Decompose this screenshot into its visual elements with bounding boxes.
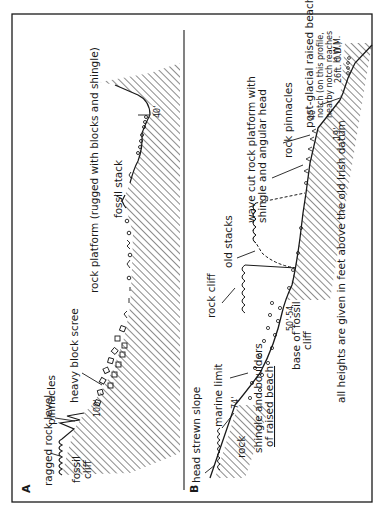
label-pinnacles: pinnacles — [45, 375, 57, 425]
label-post-glacial-1: post-glacial raised beach — [303, 0, 315, 128]
coastal-profile-figure: A — [0, 0, 380, 513]
panel-a: A — [20, 47, 180, 493]
label-height-40-a: 40' — [153, 106, 162, 118]
panel-b: B — [188, 0, 372, 493]
label-base-of-fossil-cliff-2: cliff — [301, 330, 313, 350]
label-rock-platform: rock platform (rugged with blocks and sh… — [88, 47, 100, 293]
label-marine-limit: marine limit — [212, 364, 224, 427]
label-fossil-stack: fossil stack — [112, 159, 124, 218]
label-raised-beach: of raised beach — [263, 366, 275, 447]
label-rock-cliff: rock cliff — [205, 273, 217, 318]
label-height-50-54: 50'-54 — [286, 306, 295, 331]
label-height-74: 74' — [231, 397, 240, 409]
label-footnote: all heights are given in feet above the … — [335, 120, 347, 403]
label-fossil-cliff-2: cliff — [81, 459, 93, 479]
label-heavy-block-scree: heavy block scree — [68, 308, 80, 403]
figure-stage: A — [0, 0, 380, 513]
label-height-100: 100' — [93, 400, 102, 417]
label-post-glacial-2: notch (on this profile, — [316, 32, 325, 118]
label-old-stacks: old stacks — [222, 215, 234, 268]
label-head-strewn-slope: head strewn slope — [190, 387, 202, 483]
label-hwm: H.W.M. — [333, 36, 342, 63]
panel-a-label: A — [20, 484, 33, 493]
label-rock-pinnacles: rock pinnacles — [282, 82, 294, 158]
label-rock: rock — [235, 435, 247, 458]
panel-b-label: B — [188, 485, 201, 493]
label-wave-cut-platform-2: shingle and angular head — [256, 89, 268, 223]
